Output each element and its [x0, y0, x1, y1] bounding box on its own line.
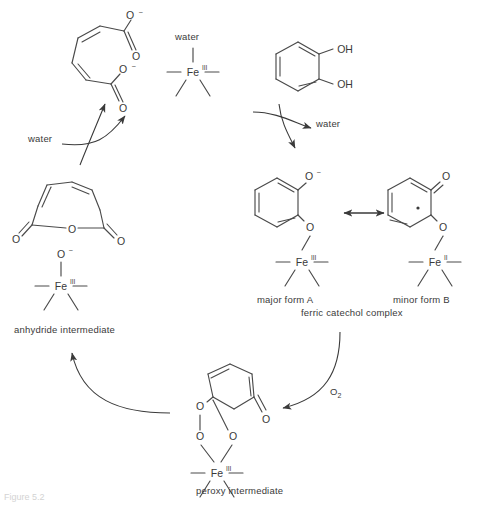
svg-text:O: O	[119, 102, 127, 114]
svg-text:OH: OH	[337, 43, 353, 55]
svg-text:O: O	[117, 235, 125, 247]
reaction-scheme-canvas: O – O O – O Fe III	[0, 0, 486, 507]
structure-fe3-water: Fe III	[167, 48, 219, 96]
label-anhydride-intermediate: anhydride intermediate	[14, 324, 115, 335]
svg-text:–: –	[132, 62, 136, 69]
svg-text:O: O	[196, 400, 204, 412]
svg-text:OH: OH	[337, 78, 353, 90]
svg-text:Fe: Fe	[296, 256, 308, 268]
arrow-peroxy-to-anhydride	[72, 353, 170, 413]
svg-text:Fe: Fe	[429, 256, 441, 268]
structure-fe3-oxo: Fe III O –	[35, 246, 87, 310]
label-water-top-fe: water	[175, 31, 199, 42]
svg-text:III: III	[70, 278, 76, 285]
svg-text:O: O	[305, 170, 313, 182]
svg-text:–: –	[69, 246, 73, 253]
label-minor-form-b: minor form B	[393, 294, 450, 305]
svg-text:O: O	[439, 221, 447, 233]
structure-catechol: OH OH	[276, 42, 353, 91]
structure-form-a: O – O Fe III	[255, 168, 328, 286]
label-major-form-a: major form A	[257, 294, 313, 305]
arrow-muconate-release	[80, 104, 105, 165]
figure-caption: Figure 5.2	[4, 492, 45, 502]
svg-text:O: O	[229, 430, 237, 442]
svg-text:II: II	[444, 254, 448, 261]
svg-text:O: O	[57, 248, 65, 260]
svg-text:O: O	[68, 223, 76, 235]
svg-text:Fe: Fe	[55, 280, 67, 292]
svg-text:O: O	[12, 233, 20, 245]
label-ferric-catechol-complex: ferric catechol complex	[301, 307, 403, 318]
label-dioxygen: O2	[330, 386, 342, 399]
svg-text:–: –	[139, 8, 143, 15]
structure-anhydride: O O O	[12, 182, 125, 247]
label-water-left: water	[28, 133, 52, 144]
structure-form-b: O O Fe II	[388, 170, 461, 286]
svg-text:O: O	[126, 9, 134, 21]
svg-text:–: –	[317, 168, 321, 175]
svg-text:Fe: Fe	[211, 467, 223, 479]
svg-text:O: O	[442, 170, 450, 182]
label-water-right: water	[316, 118, 340, 129]
svg-text:III: III	[226, 465, 232, 472]
svg-text:III: III	[202, 64, 208, 71]
label-peroxy-intermediate: peroxy intermediate	[196, 485, 283, 496]
scheme-vector-layer: O – O O – O Fe III	[0, 0, 486, 507]
dioxygen-base: O	[330, 386, 338, 397]
svg-text:Fe: Fe	[187, 66, 199, 78]
svg-text:O: O	[132, 50, 140, 62]
structure-peroxy: O O O O Fe III	[191, 364, 270, 497]
arrow-catechol-bind	[279, 104, 295, 148]
svg-text:III: III	[311, 254, 317, 261]
structure-muconate: O – O O – O	[72, 8, 143, 114]
dioxygen-subscript: 2	[338, 392, 342, 399]
svg-text:O: O	[119, 63, 127, 75]
svg-text:O: O	[306, 221, 314, 233]
svg-text:O: O	[262, 413, 270, 425]
svg-text:O: O	[196, 430, 204, 442]
